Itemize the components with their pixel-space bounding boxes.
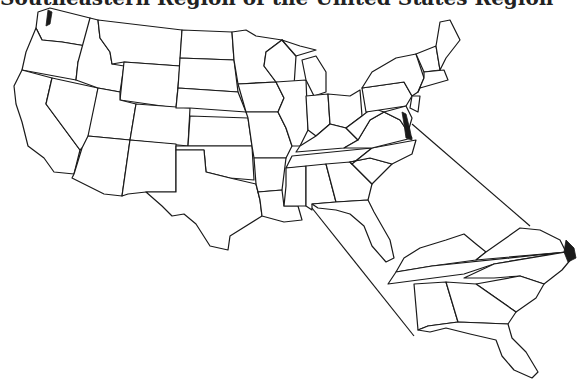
us-map [0,0,584,390]
state-new-mexico [122,140,176,196]
state-wyoming [120,62,180,108]
state-colorado [130,104,190,146]
state-arkansas [254,158,286,192]
connector-line-top [412,124,530,226]
state-florida [312,200,394,262]
main-us-map [14,8,460,262]
state-mississippi [284,166,306,206]
southeast-inset [388,228,576,378]
state-montana [98,20,182,66]
state-nebraska [176,88,246,112]
state-new-jersey [410,96,420,112]
state-north-dakota [180,30,234,60]
state-iowa [238,82,284,112]
state-kansas [188,116,252,146]
state-maine [436,20,460,70]
inset-florida [418,322,538,378]
state-south-dakota [178,58,238,92]
